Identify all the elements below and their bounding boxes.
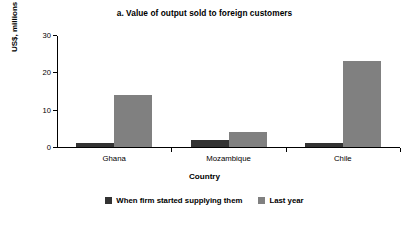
category-label-mozambique: Mozambique	[206, 154, 251, 163]
bar-chile-series-1	[305, 143, 343, 147]
bar-ghana-series-1	[76, 143, 114, 147]
x-axis-title: Country	[0, 172, 409, 181]
x-tick-2	[286, 148, 287, 152]
chart-legend: When firm started supplying themLast yea…	[0, 196, 409, 205]
bars-layer	[57, 34, 400, 147]
x-tick-1	[171, 148, 172, 152]
y-tick-label-10: 10	[43, 105, 51, 114]
x-axis-line	[57, 147, 400, 148]
bar-mozambique-series-2	[229, 132, 267, 147]
category-label-chile: Chile	[334, 154, 352, 163]
chart-title: a. Value of output sold to foreign custo…	[0, 8, 409, 18]
y-tick-0	[53, 147, 57, 148]
bar-ghana-series-2	[114, 95, 152, 147]
legend-label-1: When firm started supplying them	[116, 196, 242, 205]
y-axis-title: US$, millions	[10, 2, 19, 52]
y-tick-label-0: 0	[47, 143, 51, 152]
legend-label-2: Last year	[269, 196, 303, 205]
y-tick-label-20: 20	[43, 68, 51, 77]
bar-mozambique-series-1	[191, 140, 229, 147]
legend-swatch-icon-1	[105, 197, 112, 204]
legend-item-1[interactable]: When firm started supplying them	[105, 196, 242, 205]
category-label-ghana: Ghana	[102, 154, 125, 163]
legend-item-2[interactable]: Last year	[258, 196, 303, 205]
chart-figure: a. Value of output sold to foreign custo…	[0, 0, 409, 230]
bar-chile-series-2	[343, 61, 381, 147]
plot-area: 0102030 GhanaMozambiqueChile	[57, 34, 400, 150]
y-tick-label-30: 30	[43, 31, 51, 40]
x-tick-3	[400, 148, 401, 152]
legend-swatch-icon-2	[258, 197, 265, 204]
